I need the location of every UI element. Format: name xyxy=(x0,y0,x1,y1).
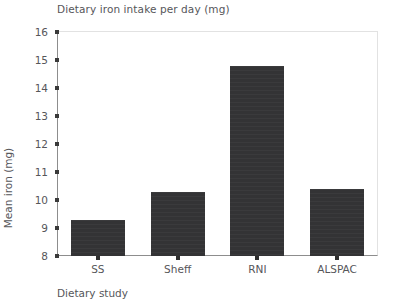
x-axis-tick-mark xyxy=(255,256,259,260)
y-axis-tick-label: 11 xyxy=(8,167,48,178)
x-axis-tick-mark xyxy=(176,256,180,260)
y-axis-title: Mean iron (mg) xyxy=(2,128,14,248)
bar-series xyxy=(58,32,377,256)
x-axis-tick-mark xyxy=(96,256,100,260)
bar xyxy=(71,220,125,256)
y-axis-tick-label: 12 xyxy=(8,139,48,150)
y-axis-tick-label: 15 xyxy=(8,55,48,66)
x-axis-tick-label: ALSPAC xyxy=(292,263,382,275)
y-axis-tick-label: 14 xyxy=(8,83,48,94)
bar xyxy=(151,192,205,256)
y-axis-tick-label: 9 xyxy=(8,223,48,234)
x-axis-tick-mark xyxy=(335,256,339,260)
chart-title: Dietary iron intake per day (mg) xyxy=(57,3,230,15)
y-axis-tick-label: 8 xyxy=(8,251,48,262)
x-axis-tick-label: RNI xyxy=(212,263,302,275)
y-axis-tick-label: 10 xyxy=(8,195,48,206)
x-axis-tick-label: SS xyxy=(53,263,143,275)
bar xyxy=(230,66,284,256)
y-axis-tick-label: 13 xyxy=(8,111,48,122)
bar xyxy=(310,189,364,256)
x-axis-title: Dietary study xyxy=(57,287,128,299)
y-axis-tick-label: 16 xyxy=(8,27,48,38)
x-axis-tick-label: Sheff xyxy=(133,263,223,275)
